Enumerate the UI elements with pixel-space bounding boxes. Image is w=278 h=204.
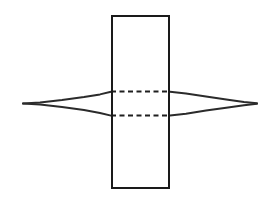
plate-fill — [111, 15, 170, 189]
technical-drawing-svg — [0, 0, 278, 204]
drawing-canvas — [0, 0, 278, 204]
